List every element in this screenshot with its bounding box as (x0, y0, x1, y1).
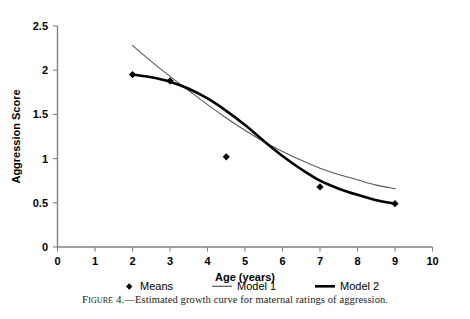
x-tick-label-9: 9 (392, 255, 398, 267)
y-tick-label-1.5: 1.5 (33, 108, 48, 120)
y-tick-label-2.5: 2.5 (33, 20, 48, 32)
figure-container: 2.5 2 1.5 1 0.5 0 0 1 2 3 4 5 6 7 8 9 (0, 0, 470, 319)
figure-caption: Figure 4.—Estimated growth curve for mat… (0, 293, 470, 305)
legend-item-model-2: Model 2 (315, 280, 379, 290)
x-tick-label-4: 4 (204, 255, 211, 267)
x-tick-label-1: 1 (92, 255, 98, 267)
legend-item-means: Means (126, 280, 174, 290)
x-tick-label-10: 10 (426, 255, 438, 267)
diamond-marker-icon (126, 283, 132, 289)
x-tick-label-0: 0 (54, 255, 60, 267)
x-tick-label-6: 6 (279, 255, 285, 267)
data-point-means (223, 153, 230, 160)
series-line-model-1 (133, 45, 396, 188)
x-tick-label-3: 3 (167, 255, 173, 267)
y-tick-label-1: 1 (42, 153, 48, 165)
caption-figure-number: Figure 4. (82, 293, 124, 305)
x-tick-label-8: 8 (354, 255, 360, 267)
series-markers-means (129, 71, 399, 207)
legend-label-means: Means (140, 280, 174, 290)
x-tick-label-5: 5 (242, 255, 248, 267)
y-tick-label-0: 0 (42, 241, 48, 253)
legend-label-model-2: Model 2 (340, 280, 379, 290)
data-point-means (391, 200, 398, 207)
legend-label-model-1: Model 1 (237, 280, 276, 290)
x-tick-label-2: 2 (129, 255, 135, 267)
y-tick-label-2: 2 (42, 64, 48, 76)
aggression-growth-curve-chart: 2.5 2 1.5 1 0.5 0 0 1 2 3 4 5 6 7 8 9 (0, 0, 470, 290)
y-axis-title: Aggression Score (10, 89, 22, 183)
caption-dash: — (124, 294, 135, 305)
x-tick-label-7: 7 (317, 255, 323, 267)
caption-text: Estimated growth curve for maternal rati… (135, 294, 388, 305)
chart-legend: Means Model 1 Model 2 (126, 280, 379, 290)
y-tick-label-0.5: 0.5 (33, 197, 48, 209)
data-point-means (316, 183, 323, 190)
series-line-model-2 (133, 75, 396, 204)
data-point-means (129, 71, 136, 78)
